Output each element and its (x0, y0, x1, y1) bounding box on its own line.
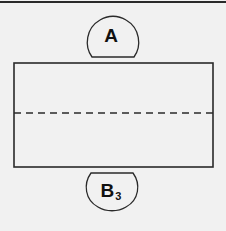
tab-b-letter: B (101, 180, 115, 201)
tab-a-letter: A (104, 25, 118, 46)
tab-b3-label: B3 (87, 181, 135, 202)
tab-a-label: A (87, 26, 135, 45)
main-rectangle (14, 63, 213, 167)
tab-b-subscript: 3 (115, 190, 121, 202)
diagram-canvas: A B3 (0, 0, 226, 231)
